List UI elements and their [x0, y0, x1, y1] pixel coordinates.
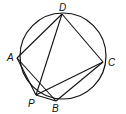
point-label-A: A [7, 53, 14, 63]
point-label-B: B [52, 104, 59, 114]
inscribed-quadrilateral-diagram: DACPB [0, 0, 126, 114]
point-label-C: C [108, 58, 115, 68]
circle [20, 13, 106, 99]
point-label-D: D [59, 3, 66, 13]
segment-DC [62, 14, 103, 62]
point-label-P: P [28, 99, 35, 109]
